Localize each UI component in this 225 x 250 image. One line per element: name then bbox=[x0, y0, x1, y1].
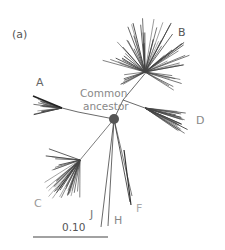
clade-label-c: C bbox=[34, 197, 42, 210]
clade-label-j: J bbox=[89, 208, 93, 221]
branch-a-stem bbox=[62, 108, 78, 112]
common-ancestor-node bbox=[109, 114, 119, 124]
clade-label-h: H bbox=[114, 214, 122, 227]
root-label-line2: ancestor bbox=[83, 100, 129, 112]
clade-label-a: A bbox=[36, 76, 44, 89]
phylogenetic-tree: (a) Common ancestor A B C D F H J 0.10 bbox=[0, 0, 225, 250]
branch-j bbox=[101, 119, 114, 227]
branch-f bbox=[114, 119, 132, 196]
scale-bar-label: 0.10 bbox=[62, 221, 85, 233]
branch-h bbox=[108, 119, 114, 226]
clade-label-f: F bbox=[136, 202, 142, 215]
branch-c-stem bbox=[80, 119, 114, 160]
clade-label-b: B bbox=[178, 26, 186, 39]
panel-label: (a) bbox=[12, 28, 27, 41]
root-label-line1: Common bbox=[80, 87, 127, 99]
branch-a-stem bbox=[78, 112, 114, 119]
branch-b-leaf bbox=[145, 72, 170, 79]
branch-f bbox=[114, 119, 130, 202]
clade-label-d: D bbox=[196, 114, 204, 127]
